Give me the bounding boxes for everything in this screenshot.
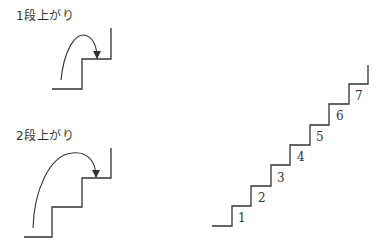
- step-number-5: 5: [316, 130, 324, 144]
- step-number-7: 7: [355, 89, 363, 103]
- two-step-jump-arrow: [33, 153, 96, 228]
- two-step-stair: [24, 148, 111, 237]
- one-step-stair: [52, 28, 111, 89]
- step-number-1: 1: [238, 211, 246, 225]
- step-number-2: 2: [258, 191, 266, 205]
- one-step-jump-arrow: [61, 35, 97, 80]
- stairs-diagram: 1 2 3 4 5 6 7: [0, 0, 387, 251]
- arrowhead-icon: [92, 170, 100, 178]
- step-number-4: 4: [297, 150, 305, 164]
- arrowhead-icon: [93, 51, 101, 59]
- seven-step-staircase: 1 2 3 4 5 6 7: [212, 65, 368, 226]
- step-number-3: 3: [277, 171, 285, 185]
- step-number-6: 6: [336, 109, 344, 123]
